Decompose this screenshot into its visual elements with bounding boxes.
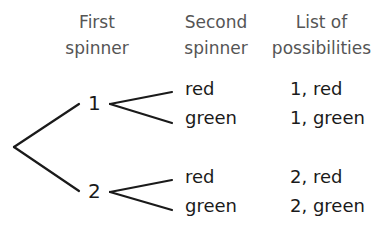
second-spinner-2-green: green xyxy=(185,196,237,216)
first-spinner-outcome-2: 2 xyxy=(88,180,101,202)
branch-root-to-1 xyxy=(14,104,79,147)
possibility-2-red: 2, red xyxy=(290,167,342,187)
branch-root-to-2 xyxy=(14,147,79,191)
possibility-2-green: 2, green xyxy=(290,196,365,216)
branch-2-to-red xyxy=(110,180,172,192)
branch-2-to-green xyxy=(110,192,172,210)
second-spinner-1-red: red xyxy=(185,79,215,99)
possibility-1-green: 1, green xyxy=(290,108,365,128)
first-spinner-outcome-1: 1 xyxy=(88,92,101,114)
branch-1-to-green xyxy=(110,104,172,123)
second-spinner-1-green: green xyxy=(185,108,237,128)
second-spinner-2-red: red xyxy=(185,167,215,187)
branch-1-to-red xyxy=(110,92,172,104)
possibility-1-red: 1, red xyxy=(290,79,342,99)
